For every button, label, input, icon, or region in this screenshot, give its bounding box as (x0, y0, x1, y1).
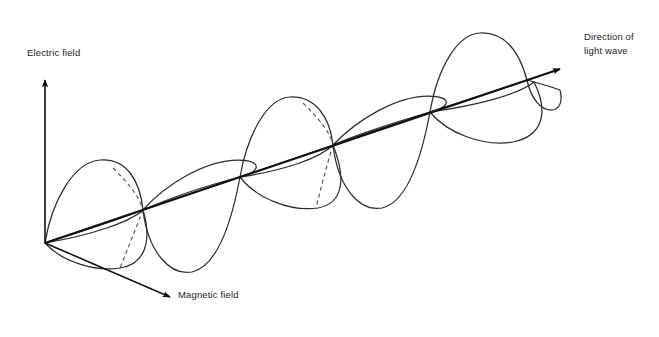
magnetic-field-label: Magnetic field (178, 289, 239, 300)
direction-label-line1: Direction of (584, 31, 634, 42)
diagram-canvas: Electric field Magnetic field Direction … (0, 0, 659, 337)
propagation-axis-arrow (45, 69, 560, 243)
magnetic-field-axis-arrow (45, 243, 170, 297)
electric-crest-1 (45, 160, 143, 243)
direction-label-line2: light wave (584, 45, 628, 56)
magnetic-lobe-4 (333, 96, 446, 145)
electric-crest-2 (240, 97, 333, 177)
hidden-edge-2 (120, 210, 143, 268)
magnetic-lobe-2 (143, 160, 256, 210)
electromagnetic-wave-diagram: Electric field Magnetic field Direction … (0, 0, 659, 337)
magnetic-lobe-5 (430, 82, 542, 143)
electric-field-wave (45, 33, 561, 272)
electric-field-label: Electric field (27, 47, 80, 58)
electric-tail (527, 80, 561, 110)
magnetic-lobe-3 (240, 145, 341, 209)
